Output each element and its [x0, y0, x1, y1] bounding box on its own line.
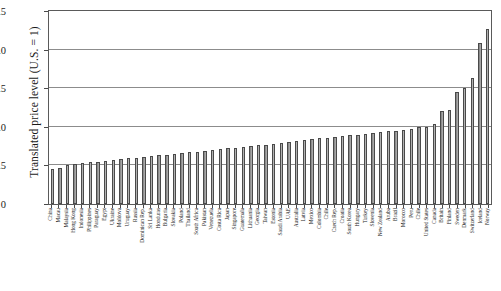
- y-tick-label: 0: [0, 199, 6, 210]
- x-tick-label: Canada: [432, 208, 437, 224]
- x-tick-slot: Uruguay: [126, 208, 129, 291]
- x-tick-label: South Africa: [194, 208, 199, 235]
- x-axis-tick-labels: ChinaMacauMalaysiaHong KongIndonesiaPhil…: [48, 208, 492, 291]
- bar: [364, 134, 367, 204]
- x-tick-label: Chile: [417, 208, 422, 219]
- x-tick-label: Sri Lanka: [148, 208, 153, 229]
- x-tick-slot: Saudi Arabia: [280, 208, 283, 291]
- x-tick-label: Lithuania: [248, 208, 253, 228]
- bar: [226, 148, 229, 204]
- x-tick-slot: New Zealand: [379, 208, 382, 291]
- x-tick-label: Taiwan: [263, 208, 268, 224]
- x-tick-slot: Philippines: [88, 208, 91, 291]
- x-tick-label: Estonia: [271, 208, 276, 224]
- x-tick-label: Poland: [179, 208, 184, 223]
- y-axis-title: Translated price level (U.S. = 1): [28, 2, 40, 202]
- x-tick-slot: South Korea: [349, 208, 352, 291]
- bar: [257, 145, 260, 204]
- bar: [455, 92, 458, 204]
- bar-series: [49, 11, 491, 204]
- x-tick-label: Philippines: [87, 208, 92, 232]
- x-tick-slot: Aruba: [387, 208, 390, 291]
- bar: [410, 129, 413, 204]
- bar: [58, 168, 61, 204]
- x-tick-slot: Ukraine: [111, 208, 114, 291]
- x-tick-slot: Georgia: [257, 208, 260, 291]
- x-tick-label: Britain: [440, 208, 445, 223]
- x-tick-slot: Slovakia: [172, 208, 175, 291]
- x-tick-slot: Dominican Rep.: [142, 208, 145, 291]
- bar: [379, 132, 382, 204]
- x-tick-slot: Paraguay: [96, 208, 99, 291]
- x-tick-slot: Slovenia: [372, 208, 375, 291]
- x-tick-slot: United States: [425, 208, 428, 291]
- x-tick-slot: Switzerland: [471, 208, 474, 291]
- x-tick-slot: Sri Lanka: [149, 208, 152, 291]
- x-tick-label: United States: [424, 208, 429, 236]
- x-tick-slot: Venezuela: [211, 208, 214, 291]
- x-tick-label: Ukraine: [110, 208, 115, 225]
- x-tick-slot: Costa Rica: [218, 208, 221, 291]
- x-tick-label: Norway: [486, 208, 491, 225]
- y-tick-label: 0.5: [0, 160, 6, 171]
- x-tick-slot: Indonesia: [80, 208, 83, 291]
- bar: [387, 131, 390, 204]
- bar: [471, 78, 474, 204]
- x-tick-label: Japan: [225, 208, 230, 220]
- x-tick-slot: Sweden: [456, 208, 459, 291]
- bar: [433, 124, 436, 204]
- x-tick-label: Morocco: [401, 208, 406, 227]
- x-tick-slot: Thailand: [188, 208, 191, 291]
- x-tick-label: Paraguay: [95, 208, 100, 228]
- x-tick-slot: China: [50, 208, 53, 291]
- bar: [165, 155, 168, 204]
- bar: [463, 88, 466, 204]
- x-tick-label: Saudi Arabia: [279, 208, 284, 235]
- x-tick-label: Aruba: [386, 208, 391, 221]
- x-tick-slot: Turkey: [364, 208, 367, 291]
- bar: [150, 156, 153, 204]
- x-tick-label: Peru: [409, 208, 414, 218]
- x-tick-slot: Finland: [448, 208, 451, 291]
- x-tick-label: Indonesia: [79, 208, 84, 229]
- bar: [180, 153, 183, 204]
- plot-area: [48, 10, 492, 205]
- x-tick-label: Croatia: [340, 208, 345, 224]
- x-tick-slot: Brazil: [395, 208, 398, 291]
- bar: [66, 165, 69, 204]
- x-tick-slot: Moldova: [119, 208, 122, 291]
- bar: [135, 158, 138, 204]
- bar: [478, 43, 481, 204]
- bar: [310, 139, 313, 204]
- x-tick-label: UAE: [286, 208, 291, 219]
- x-tick-label: Russia: [133, 208, 138, 222]
- x-tick-slot: Russia: [134, 208, 137, 291]
- x-tick-label: Pakistan: [202, 208, 207, 226]
- x-tick-label: Hong Kong: [72, 208, 77, 233]
- y-tick-label: 2.0: [0, 44, 6, 55]
- x-tick-label: Venezuela: [210, 208, 215, 230]
- x-tick-slot: Australia: [295, 208, 298, 291]
- x-tick-label: Sweden: [455, 208, 460, 225]
- bar: [280, 143, 283, 204]
- x-tick-label: New Zealand: [378, 208, 383, 236]
- x-tick-slot: Poland: [180, 208, 183, 291]
- bar: [127, 158, 130, 204]
- x-tick-slot: Mexico: [310, 208, 313, 291]
- x-tick-label: Macau: [56, 208, 61, 222]
- x-tick-slot: Denmark: [464, 208, 467, 291]
- x-tick-label: Chile: [325, 208, 330, 219]
- x-tick-slot: Canada: [433, 208, 436, 291]
- bar: [440, 111, 443, 204]
- x-tick-label: Costa Rica: [217, 208, 222, 231]
- x-tick-label: Turkey: [363, 208, 368, 223]
- x-tick-slot: Taiwan: [264, 208, 267, 291]
- bar: [264, 145, 267, 204]
- x-tick-label: Thailand: [187, 208, 192, 227]
- x-tick-label: Switzerland: [470, 208, 475, 233]
- x-tick-slot: Hungary: [356, 208, 359, 291]
- bar: [356, 135, 359, 204]
- x-tick-label: Finland: [447, 208, 452, 224]
- bar: [303, 140, 306, 204]
- x-tick-slot: Chile: [418, 208, 421, 291]
